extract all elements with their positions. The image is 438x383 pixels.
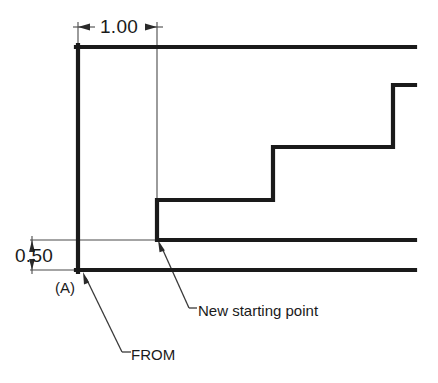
dimension-label-height: 0.50: [15, 246, 53, 265]
arrowhead-width-left: [78, 24, 90, 31]
technical-drawing-canvas: 1.00 0.50 (A) FROM New starting point: [0, 0, 438, 383]
profile-step-contour: [157, 85, 415, 240]
drawing-vector-layer: [0, 0, 438, 383]
note-label-from: FROM: [131, 347, 175, 362]
arrowhead-leader-from: [83, 272, 89, 284]
leader-lines-group: [83, 240, 197, 352]
point-label-a: (A): [55, 280, 75, 295]
arrowhead-width-right: [145, 24, 157, 31]
dimension-lines-group: [29, 22, 163, 274]
dimension-label-width: 1.00: [100, 17, 138, 36]
part-outline-group: [76, 45, 415, 272]
leader-line-new-start: [162, 248, 189, 308]
leader-line-from: [86, 278, 122, 352]
note-label-new-starting-point: New starting point: [198, 303, 318, 318]
